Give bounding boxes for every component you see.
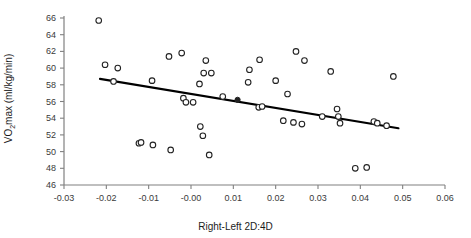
x-axis-tick-label: -0.00	[181, 193, 202, 203]
data-point	[201, 70, 207, 76]
x-axis-tick-label: 0.03	[309, 193, 327, 203]
data-point	[179, 50, 185, 56]
data-point	[166, 54, 172, 60]
data-point	[280, 118, 286, 124]
data-point	[273, 78, 279, 84]
data-point	[247, 67, 253, 73]
x-axis-tick-label: 0.02	[267, 193, 285, 203]
axis-layer	[60, 16, 445, 189]
x-axis-tick-label: 0.05	[394, 193, 412, 203]
data-points-layer	[96, 18, 396, 171]
regression-line	[100, 79, 398, 128]
data-point	[259, 104, 265, 110]
data-point	[319, 114, 325, 120]
chart-figure: VO2max (ml/kg/min) 464850525456586062646…	[0, 0, 471, 238]
y-axis-label-post: max (ml/kg/min)	[4, 53, 15, 124]
data-point	[206, 152, 212, 158]
y-axis-tick-label: 58	[30, 80, 56, 90]
data-point	[299, 121, 305, 127]
data-point	[291, 120, 297, 126]
data-point	[102, 62, 108, 68]
x-axis-label: Right-Left 2D:4D	[0, 221, 471, 232]
y-axis-tick-label: 60	[30, 63, 56, 73]
data-point	[190, 100, 196, 106]
mean-point-marker	[235, 97, 240, 102]
data-point	[302, 58, 308, 64]
data-point	[293, 49, 299, 55]
x-axis-tick-label: -0.01	[138, 193, 159, 203]
y-axis-label-container: VO2max (ml/kg/min)	[2, 0, 18, 196]
y-axis-label: VO2max (ml/kg/min)	[4, 53, 17, 142]
data-point	[111, 79, 117, 85]
data-point	[328, 69, 334, 75]
y-axis-tick-label: 62	[30, 46, 56, 56]
data-point	[96, 18, 102, 24]
data-point	[220, 94, 226, 100]
x-axis-tick-label: 0.04	[352, 193, 370, 203]
y-axis-tick-label: 64	[30, 30, 56, 40]
data-point	[257, 57, 263, 63]
x-axis-tick-label: -0.02	[96, 193, 117, 203]
y-axis-tick-label: 52	[30, 130, 56, 140]
data-point	[168, 147, 174, 153]
y-axis-tick-label: 54	[30, 113, 56, 123]
data-point	[115, 65, 121, 71]
data-point	[391, 74, 397, 80]
data-point	[203, 58, 209, 64]
data-point	[374, 120, 380, 126]
x-axis-tick-label: -0.03	[54, 193, 75, 203]
data-point	[352, 166, 358, 172]
data-point	[149, 78, 155, 84]
y-axis-tick-label: 48	[30, 163, 56, 173]
data-point	[209, 70, 215, 76]
data-point	[334, 106, 340, 112]
y-axis-tick-label: 50	[30, 147, 56, 157]
data-point	[337, 120, 343, 126]
data-point	[384, 123, 390, 129]
data-point	[183, 100, 189, 106]
x-axis-tick-label: 0.06	[436, 193, 454, 203]
data-point	[150, 142, 156, 148]
data-point	[364, 165, 370, 171]
data-point	[285, 91, 291, 97]
y-axis-tick-label: 46	[30, 180, 56, 190]
data-point	[245, 79, 251, 85]
data-point	[200, 133, 206, 139]
data-point	[197, 81, 203, 87]
data-point	[336, 114, 342, 120]
x-axis-tick-label: 0.01	[225, 193, 243, 203]
y-axis-label-pre: VO	[4, 128, 15, 142]
data-point	[198, 124, 204, 130]
trendline	[100, 79, 398, 128]
data-point	[138, 140, 144, 146]
y-axis-tick-label: 66	[30, 13, 56, 23]
y-axis-tick-label: 56	[30, 97, 56, 107]
